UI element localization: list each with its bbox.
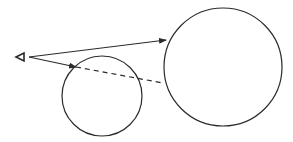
sight-line-visible <box>29 40 166 57</box>
large-circle <box>164 8 282 126</box>
small-circle <box>62 56 142 136</box>
sight-line-occluded-dashed <box>76 67 163 83</box>
occlusion-diagram <box>0 0 293 142</box>
sight-line-blocked <box>29 57 76 67</box>
eye-triangle-icon <box>16 53 24 61</box>
